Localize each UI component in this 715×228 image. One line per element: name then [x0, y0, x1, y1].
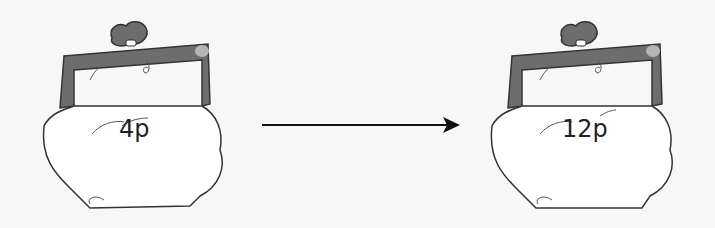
left-purse: 4p — [30, 10, 250, 220]
right-purse: 12p — [470, 10, 690, 220]
amount-label: 4p — [119, 115, 150, 143]
amount-label: 12p — [562, 115, 608, 143]
arrow-right-icon — [255, 110, 465, 140]
